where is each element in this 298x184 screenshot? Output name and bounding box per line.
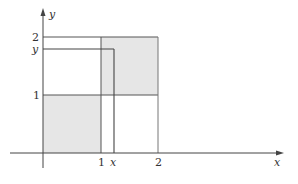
y-axis-arrow-icon <box>41 8 46 16</box>
x-tick-x: x <box>110 156 117 169</box>
y-tick-y: y <box>31 43 39 56</box>
x-axis-label: x <box>274 156 281 169</box>
x-tick-2: 2 <box>155 156 162 169</box>
unit-square-diagram: y x 2 y 1 1 x 2 <box>0 0 298 184</box>
x-axis-arrow-icon <box>276 151 284 156</box>
y-tick-1: 1 <box>33 89 40 102</box>
y-axis-label: y <box>48 8 56 21</box>
shaded-square-lower-left <box>43 95 101 153</box>
x-tick-1: 1 <box>98 156 105 169</box>
shaded-square-upper-right <box>101 37 158 95</box>
